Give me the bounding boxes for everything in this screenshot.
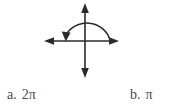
coordinate-axes-svg — [0, 0, 169, 82]
y-axis-bottom-arrowhead — [81, 68, 89, 78]
answer-option-a-value: 2π — [22, 86, 36, 104]
answer-option-b-value: π — [146, 86, 153, 104]
x-axis-right-arrowhead — [109, 37, 119, 45]
rotation-diagram — [0, 0, 169, 82]
answer-option-b-letter: b. — [130, 86, 141, 104]
answer-option-b[interactable]: b.π — [130, 86, 153, 104]
answer-option-a-letter: a. — [7, 86, 17, 104]
rotation-arc-path — [68, 23, 111, 40]
question-figure-page: a.2π b.π — [0, 0, 169, 111]
x-axis-left-arrowhead — [44, 37, 54, 45]
rotation-arc-arrowhead — [62, 32, 71, 42]
answer-choices: a.2π b.π — [0, 82, 169, 111]
y-axis-top-arrowhead — [81, 3, 89, 13]
answer-option-a[interactable]: a.2π — [7, 86, 36, 104]
